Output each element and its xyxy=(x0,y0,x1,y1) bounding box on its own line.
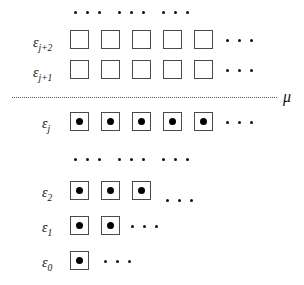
level-trailing-dot xyxy=(250,69,253,72)
occupied-state-box xyxy=(70,181,89,200)
empty-state-box xyxy=(194,60,213,79)
occupied-state-box xyxy=(132,181,151,200)
level-trailing-dot xyxy=(226,121,229,124)
level-label-eps-0: ε0 xyxy=(42,254,52,273)
chemical-potential-line xyxy=(12,97,277,98)
occupied-state-box xyxy=(70,251,89,270)
level-trailing-dot xyxy=(178,199,181,202)
level-subscript: j+1 xyxy=(39,73,53,83)
occupied-state-box xyxy=(132,112,151,131)
middle-ellipsis-dot xyxy=(186,158,189,161)
empty-state-box xyxy=(163,30,182,49)
level-trailing-dot xyxy=(226,69,229,72)
top-ellipsis-dot xyxy=(142,11,145,14)
level-subscript: 0 xyxy=(48,263,53,273)
occupied-state-box xyxy=(70,112,89,131)
empty-state-box xyxy=(101,60,120,79)
empty-state-box xyxy=(70,30,89,49)
middle-ellipsis-dot xyxy=(98,158,101,161)
middle-ellipsis-dot xyxy=(162,158,165,161)
level-trailing-dot xyxy=(143,225,146,228)
level-label-eps-2: ε2 xyxy=(42,184,52,203)
energy-level-diagram: εj+2εj+1εjε2ε1ε0μ xyxy=(0,0,304,285)
occupied-state-box xyxy=(163,112,182,131)
level-trailing-dot xyxy=(238,69,241,72)
level-trailing-dot xyxy=(166,199,169,202)
empty-state-box xyxy=(132,60,151,79)
level-subscript: 1 xyxy=(48,228,53,238)
middle-ellipsis-dot xyxy=(86,158,89,161)
middle-ellipsis-dot xyxy=(118,158,121,161)
level-trailing-dot xyxy=(116,260,119,263)
occupied-state-box xyxy=(101,181,120,200)
empty-state-box xyxy=(101,30,120,49)
middle-ellipsis-dot xyxy=(130,158,133,161)
level-label-eps-1: ε1 xyxy=(42,219,52,238)
empty-state-box xyxy=(70,60,89,79)
level-label-eps-j: εj xyxy=(42,115,50,134)
top-ellipsis-dot xyxy=(86,11,89,14)
level-subscript: j+2 xyxy=(39,43,53,53)
middle-ellipsis-dot xyxy=(74,158,77,161)
level-trailing-dot xyxy=(104,260,107,263)
level-trailing-dot xyxy=(238,121,241,124)
level-trailing-dot xyxy=(131,225,134,228)
level-trailing-dot xyxy=(226,39,229,42)
empty-state-box xyxy=(163,60,182,79)
empty-state-box xyxy=(132,30,151,49)
empty-state-box xyxy=(194,30,213,49)
level-trailing-dot xyxy=(250,39,253,42)
middle-ellipsis-dot xyxy=(174,158,177,161)
top-ellipsis-dot xyxy=(186,11,189,14)
level-trailing-dot xyxy=(155,225,158,228)
top-ellipsis-dot xyxy=(130,11,133,14)
occupied-state-box xyxy=(101,112,120,131)
level-label-eps-j-plus-2: εj+2 xyxy=(33,34,52,53)
level-subscript: j xyxy=(48,124,51,134)
level-trailing-dot xyxy=(250,121,253,124)
level-label-eps-j-plus-1: εj+1 xyxy=(33,64,52,83)
top-ellipsis-dot xyxy=(118,11,121,14)
top-ellipsis-dot xyxy=(162,11,165,14)
level-trailing-dot xyxy=(190,199,193,202)
occupied-state-box xyxy=(70,216,89,235)
top-ellipsis-dot xyxy=(174,11,177,14)
occupied-state-box xyxy=(101,216,120,235)
level-trailing-dot xyxy=(128,260,131,263)
level-trailing-dot xyxy=(238,39,241,42)
top-ellipsis-dot xyxy=(98,11,101,14)
level-subscript: 2 xyxy=(48,193,53,203)
top-ellipsis-dot xyxy=(74,11,77,14)
middle-ellipsis-dot xyxy=(142,158,145,161)
occupied-state-box xyxy=(194,112,213,131)
chemical-potential-label: μ xyxy=(283,89,291,105)
